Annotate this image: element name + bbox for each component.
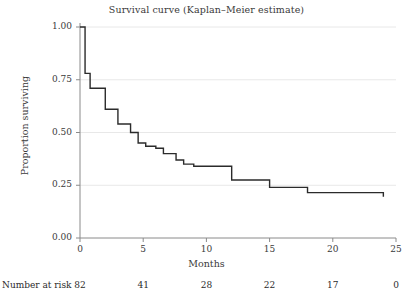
y-tick-label: 0.25 xyxy=(38,179,72,189)
y-tick-label: 0.00 xyxy=(38,232,72,242)
tick-marks-group xyxy=(76,27,396,242)
survival-chart-figure: Survival curve (Kaplan–Meier estimate) 0… xyxy=(0,0,413,302)
risk-table-cell: 22 xyxy=(255,280,285,290)
plot-area xyxy=(0,0,413,302)
risk-table-cell: 28 xyxy=(191,280,221,290)
x-tick-label: 10 xyxy=(191,244,221,254)
survival-step-curve xyxy=(80,27,383,197)
x-tick-label: 5 xyxy=(128,244,158,254)
axes-group xyxy=(80,23,396,238)
risk-table-label: Number at risk xyxy=(2,280,72,290)
y-tick-label: 0.75 xyxy=(38,74,72,84)
risk-table-cell: 17 xyxy=(318,280,348,290)
risk-table-cell: 0 xyxy=(381,280,411,290)
risk-table-cell: 82 xyxy=(65,280,95,290)
gridlines-group xyxy=(80,27,396,185)
x-tick-label: 25 xyxy=(381,244,411,254)
y-axis-title: Proportion surviving xyxy=(19,61,30,191)
y-tick-label: 0.50 xyxy=(38,127,72,137)
x-axis-title: Months xyxy=(0,258,413,269)
x-tick-label: 0 xyxy=(65,244,95,254)
y-tick-label: 1.00 xyxy=(38,21,72,31)
x-tick-label: 15 xyxy=(255,244,285,254)
risk-table-cell: 41 xyxy=(128,280,158,290)
x-tick-label: 20 xyxy=(318,244,348,254)
